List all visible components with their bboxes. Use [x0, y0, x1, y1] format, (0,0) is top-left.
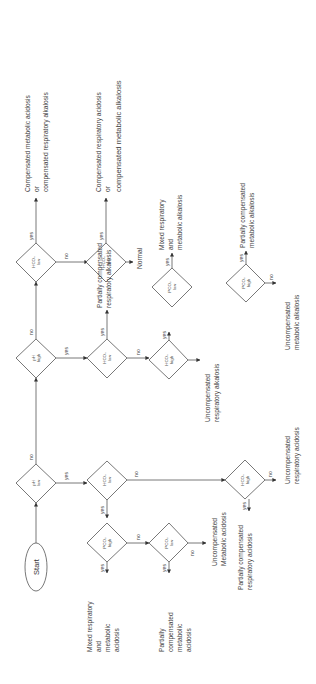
label-yes: yes [63, 472, 69, 480]
decision-hco3-high-c: HCO₃ high [149, 340, 188, 379]
outcome-text: acidosis [113, 627, 120, 652]
outcome-text: Uncompensated [211, 518, 219, 566]
outcome-text: Mixed respiratory [86, 601, 94, 652]
outcome-comp-resp-acid: Compensated respiratory acidosis or comp… [95, 80, 123, 192]
outcome-text: metabolic [104, 623, 111, 652]
outcome-text: metabolic alkalosis [248, 192, 255, 248]
label-yes: yes [99, 564, 105, 572]
outcome-comp-met-acid: Compensated metabolic acidosis or compen… [24, 92, 50, 192]
outcome-text: Partially compensated [239, 183, 247, 248]
label-yes: yes [164, 258, 170, 266]
start-label: Start [32, 558, 41, 575]
decision-text: low [172, 283, 177, 290]
decision-pco2-high-e: PCO₂ high [87, 523, 127, 562]
outcome-text: respiratory acidosis [246, 532, 254, 590]
decision-pco2-low-f: PCO₂ low [149, 523, 188, 562]
label-yes: yes [238, 254, 244, 262]
outcome-text: and [95, 641, 102, 652]
decision-text: low [36, 258, 41, 265]
label-yes: yes [99, 328, 105, 336]
label-no: no [63, 253, 69, 259]
outcome-text: compensated respiratory alkalosis [42, 92, 50, 192]
outcome-text: Mixed respiratory [158, 199, 166, 250]
decision-hco3-low-a: HCO₃ low [16, 243, 56, 282]
outcome-text: Partially compensated [237, 525, 245, 590]
outcome-text: acidosis [185, 627, 192, 652]
label-no: no [268, 274, 274, 280]
decision-text: high [246, 278, 251, 287]
outcome-text: metabolic alkalosis [293, 294, 300, 350]
outcome-mixed-acid: Mixed respiratory and metabolic acidosis [86, 601, 120, 652]
outcome-uncomp-resp-acid: Uncompensated respiratory acidosis [284, 426, 301, 484]
outcome-mixed-alk: Mixed respiratory and metabolic alkalosi… [158, 194, 183, 250]
outcome-text: Partially compensated [96, 243, 104, 308]
outcome-text: Uncompensated [284, 436, 292, 484]
decision-text: high [107, 538, 112, 547]
label-yes: yes [98, 232, 104, 240]
outcome-text: Normal [136, 247, 143, 269]
outcome-text: Partially [158, 628, 166, 652]
decision-ph-low: pH low [16, 464, 56, 503]
outcome-text: metabolic [176, 623, 183, 652]
flowchart-canvas: no no yes no yes yes yes no yes yes yes … [0, 0, 316, 684]
outcome-text: metabolic alkalosis [176, 194, 183, 250]
outcome-text: respiratory alkalosis [213, 363, 221, 422]
decision-text: high [169, 355, 174, 364]
label-no: no [135, 534, 141, 540]
outcome-partial-resp-acid: Partially compensated respiratory acidos… [237, 525, 254, 590]
label-yes: yes [161, 564, 167, 572]
outcome-text: Compensated respiratory acidosis [95, 92, 103, 192]
decision-hco3-low-c: HCO₃ low [87, 339, 127, 378]
outcome-text: or [104, 185, 111, 192]
outcome-text: and [167, 239, 174, 250]
flowchart-svg: no no yes no yes yes yes no yes yes yes … [0, 0, 316, 684]
outcome-partial-met-alk: Partially compensated metabolic alkalosi… [239, 183, 255, 248]
outcome-text: compensated metabolic alkalosis [114, 80, 123, 192]
decision-text: low [36, 479, 41, 486]
outcome-text: Uncompensated [204, 374, 212, 422]
label-yes: yes [63, 347, 69, 355]
decision-text: low [107, 476, 112, 483]
outcome-text: compensated [167, 612, 175, 652]
decision-pco2-high-d: PCO₂ high [226, 264, 265, 302]
outcome-uncomp-met-acid: Uncompensated Metabolic acidosis [211, 511, 227, 566]
outcome-partial-resp-alk: Partially compensated respiratory alkalo… [96, 243, 113, 308]
outcome-text: Metabolic acidosis [220, 511, 227, 566]
outcome-normal: Normal [136, 247, 143, 269]
label-yes: yes [241, 502, 247, 510]
outcome-text: respiratory alkalosis [105, 249, 113, 308]
outcome-text: Uncompensated [284, 302, 292, 350]
start-node: Start [25, 543, 47, 591]
decision-hco3-low-e: HCO₃ low [87, 461, 127, 500]
decision-hco3-high-g: HCO₃ high [225, 460, 265, 499]
label-no: no [28, 454, 34, 460]
decision-text: low [107, 354, 112, 361]
label-no: no [189, 550, 195, 556]
label-yes: yes [99, 506, 105, 514]
outcome-text: Compensated metabolic acidosis [24, 95, 32, 192]
outcome-uncomp-resp-alk: Uncompensated respiratory alkalosis [204, 363, 221, 422]
outcome-text: or [33, 185, 40, 192]
decision-text: high [245, 475, 250, 484]
decision-text: high [36, 353, 41, 362]
label-yes: yes [161, 331, 167, 339]
decision-text: low [169, 539, 174, 546]
outcome-uncomp-met-alk: Uncompensated metabolic alkalosis [284, 294, 300, 350]
label-no: no [267, 471, 273, 477]
label-no: no [133, 471, 139, 477]
outcome-text: respiratory acidosis [293, 426, 301, 484]
outcome-partial-met-acid: Partially compensated metabolic acidosis [158, 612, 192, 652]
label-yes: yes [28, 232, 34, 240]
decision-pco2-low-c: PCO₂ low [152, 268, 192, 307]
label-no: no [28, 329, 34, 335]
label-no: no [135, 349, 141, 355]
decision-ph-high: pH high [16, 339, 56, 378]
